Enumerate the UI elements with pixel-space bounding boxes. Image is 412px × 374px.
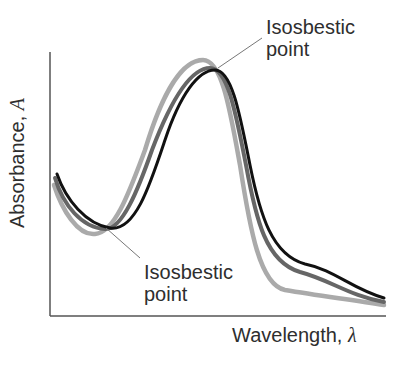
annotation-top-line1: Isosbestic xyxy=(266,16,355,38)
x-axis-label-text: Wavelength, xyxy=(232,324,348,346)
y-axis-label-text: Absorbance, xyxy=(6,110,28,228)
x-axis-label: Wavelength, λ xyxy=(232,324,357,346)
x-axis-symbol: λ xyxy=(348,324,357,346)
y-axis-symbol: A xyxy=(6,98,28,110)
annotation-top-line2: point xyxy=(266,38,355,60)
annotation-bottom-line1: Isosbestic xyxy=(144,261,233,283)
leader-line-bottom xyxy=(106,228,140,258)
leader-line-top xyxy=(218,38,262,68)
annotation-bottom: Isosbestic point xyxy=(144,261,233,305)
y-axis-label: Absorbance, A xyxy=(6,98,28,228)
annotation-top: Isosbestic point xyxy=(266,16,355,60)
annotation-bottom-line2: point xyxy=(144,283,233,305)
